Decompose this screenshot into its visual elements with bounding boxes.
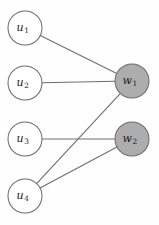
nodes-layer: u1u2u3u4w1w2 <box>8 11 149 213</box>
node-label-sub-u4: 4 <box>24 194 29 203</box>
graph-node-u4[interactable]: u4 <box>8 179 42 213</box>
node-label-sub-w2: 2 <box>132 137 137 146</box>
node-label-sub-u3: 3 <box>24 137 29 146</box>
node-label-sub-u1: 1 <box>24 26 29 35</box>
graph-canvas: u1u2u3u4w1w2 <box>0 0 159 225</box>
bipartite-graph-figure: u1u2u3u4w1w2 <box>0 0 159 225</box>
edges-layer <box>37 36 121 188</box>
node-label-sub-u2: 2 <box>24 81 29 90</box>
graph-node-w1[interactable]: w1 <box>115 64 149 98</box>
graph-edge-u2-w1 <box>42 81 115 82</box>
graph-node-u1[interactable]: u1 <box>8 11 42 45</box>
node-label-base-u2: u <box>17 76 24 89</box>
node-label-sub-w1: 1 <box>132 79 137 88</box>
node-label-base-u3: u <box>17 132 24 145</box>
node-label-base-w1: w <box>122 74 132 87</box>
graph-node-u3[interactable]: u3 <box>8 122 42 156</box>
node-label-base-u1: u <box>17 21 24 34</box>
graph-edge-u1-w1 <box>40 36 117 74</box>
graph-node-u2[interactable]: u2 <box>8 66 42 100</box>
node-label-base-w2: w <box>122 132 132 145</box>
node-label-base-u4: u <box>17 189 24 202</box>
graph-node-w2[interactable]: w2 <box>115 122 149 156</box>
